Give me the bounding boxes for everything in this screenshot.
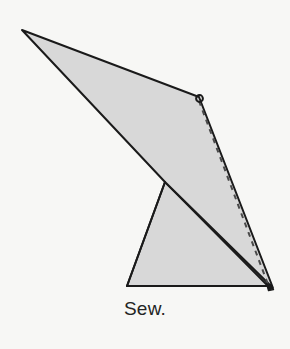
- figure-caption: Sew.: [0, 298, 290, 320]
- figure-page: Sew.: [0, 0, 290, 349]
- diagram-canvas: [0, 0, 290, 349]
